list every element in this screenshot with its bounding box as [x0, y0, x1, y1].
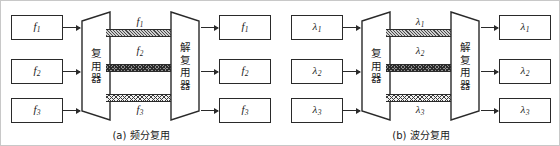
input-box: f3 — [11, 98, 63, 123]
output-box-label: f3 — [241, 104, 248, 117]
panel-caption: (b) 波分复用 — [281, 127, 560, 142]
demultiplexer-shape: 解 复 用 器 — [169, 11, 201, 121]
output-arrow — [481, 71, 498, 72]
channel-band-2 — [106, 64, 174, 72]
channel-label: λ3 — [386, 105, 454, 117]
input-arrow — [63, 110, 80, 111]
composite-channel: f1 f2 f3 — [106, 15, 174, 117]
input-arrow — [343, 27, 360, 28]
input-box: f1 — [11, 15, 63, 40]
panel-frequency-division-multiplexing: f1 f2 f3 复 用 器 f1 f2 f3 — [1, 1, 281, 146]
composite-channel: λ1 λ2 λ3 — [386, 15, 454, 117]
output-box: f1 — [219, 15, 271, 40]
output-arrow — [201, 110, 218, 111]
input-arrow — [63, 27, 80, 28]
output-arrow — [201, 27, 218, 28]
input-box: λ3 — [291, 98, 343, 123]
input-box: λ2 — [291, 59, 343, 84]
input-box: f2 — [11, 59, 63, 84]
channel-band-3 — [106, 94, 174, 102]
channel-label: f3 — [106, 105, 174, 117]
channel-band-1 — [106, 29, 174, 37]
output-arrow — [481, 110, 498, 111]
channel-label: λ1 — [386, 17, 454, 29]
multiplexing-figure: f1 f2 f3 复 用 器 f1 f2 f3 — [0, 0, 560, 146]
input-arrow — [63, 71, 80, 72]
demultiplexer-shape: 解 复 用 器 — [449, 11, 481, 121]
channel-band-1 — [386, 29, 454, 37]
input-box: λ1 — [291, 15, 343, 40]
panel-caption: (a) 频分复用 — [1, 127, 281, 142]
channel-band-3 — [386, 94, 454, 102]
output-box: f3 — [219, 98, 271, 123]
output-box-label: λ1 — [521, 21, 530, 34]
input-arrow — [343, 110, 360, 111]
output-box: λ2 — [499, 59, 551, 84]
channel-label: f2 — [106, 46, 174, 58]
output-arrow — [201, 71, 218, 72]
output-box: λ3 — [499, 98, 551, 123]
output-box: f2 — [219, 59, 271, 84]
output-box: λ1 — [499, 15, 551, 40]
input-box-label: f2 — [33, 65, 40, 78]
channel-label: f1 — [106, 17, 174, 29]
input-box-label: λ3 — [313, 104, 322, 117]
panel-wavelength-division-multiplexing: λ1 λ2 λ3 复 用 器 λ1 λ2 λ3 — [281, 1, 560, 146]
input-box-label: f1 — [33, 21, 40, 34]
input-box-label: λ1 — [313, 21, 322, 34]
output-arrow — [481, 27, 498, 28]
input-arrow — [343, 71, 360, 72]
output-box-label: f2 — [241, 65, 248, 78]
channel-label: λ2 — [386, 46, 454, 58]
channel-band-2 — [386, 64, 454, 72]
output-box-label: λ2 — [521, 65, 530, 78]
output-box-label: λ3 — [521, 104, 530, 117]
output-box-label: f1 — [241, 21, 248, 34]
input-box-label: λ2 — [313, 65, 322, 78]
input-box-label: f3 — [33, 104, 40, 117]
